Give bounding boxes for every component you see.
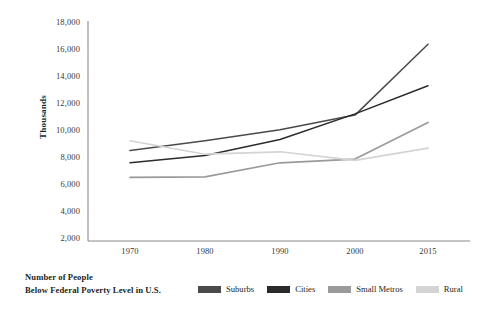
legend-swatch — [416, 286, 439, 293]
legend-swatch — [328, 286, 351, 293]
legend-items: SuburbsCitiesSmall MetrosRural — [198, 284, 476, 294]
series-line-small-metros — [130, 122, 428, 177]
x-tick-label: 1970 — [105, 246, 155, 256]
legend-label: Suburbs — [226, 284, 254, 294]
legend-swatch — [198, 286, 221, 293]
series-line-rural — [130, 141, 428, 161]
series-line-suburbs — [130, 44, 428, 150]
legend-title-line2: Below Federal Poverty Level in U.S. — [25, 284, 161, 297]
x-tick-label: 1980 — [180, 246, 230, 256]
legend-item-small-metros[interactable]: Small Metros — [328, 284, 403, 294]
legend-title-line1: Number of People — [25, 271, 161, 284]
legend-item-cities[interactable]: Cities — [267, 284, 315, 294]
legend: Number of People Below Federal Poverty L… — [25, 271, 485, 313]
plot-area — [0, 0, 497, 270]
legend-title: Number of People Below Federal Poverty L… — [25, 271, 161, 296]
legend-item-suburbs[interactable]: Suburbs — [198, 284, 254, 294]
legend-label: Cities — [295, 284, 315, 294]
x-tick-label: 1990 — [255, 246, 305, 256]
x-tick-label: 2015 — [403, 246, 453, 256]
x-tick-label: 2000 — [330, 246, 380, 256]
series-lines — [130, 44, 428, 177]
chart-container: Thousands 18,000 16,000 14,000 12,000 10… — [0, 0, 497, 318]
legend-label: Rural — [444, 284, 463, 294]
legend-swatch — [267, 286, 290, 293]
legend-item-rural[interactable]: Rural — [416, 284, 463, 294]
legend-label: Small Metros — [356, 284, 403, 294]
